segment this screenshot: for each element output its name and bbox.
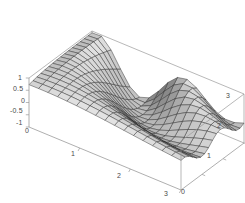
x-tick-mark [129,169,131,172]
z-tick-label-3: -0.5 [10,107,23,114]
y-tick-mark [202,174,205,175]
x-tick-label-2: 2 [117,172,121,179]
y-tick-label-3: 3 [226,92,230,99]
x-tick-mark [78,148,80,151]
y-tick-label-0: 0 [181,188,185,195]
x-tick-label-1: 1 [71,150,75,157]
surface-plot-figure: 10.50-0.5-1 0123 0123 [0,0,245,203]
y-tick-label-2: 2 [217,122,221,129]
y-tick-mark [244,143,245,144]
y-tick-label-1: 1 [207,152,211,159]
z-tick-label-4: -1 [16,119,23,126]
z-tick-label-1: 0.5 [13,85,23,92]
x-tick-label-0: 0 [25,127,29,134]
z-tick-label-2: 0 [21,97,25,104]
z-tick-label-0: 1 [18,74,22,81]
x-tick-label-3: 3 [164,190,168,197]
surface-mesh [29,33,244,161]
surface-plot-canvas [0,0,245,203]
y-tick-mark [223,159,226,160]
